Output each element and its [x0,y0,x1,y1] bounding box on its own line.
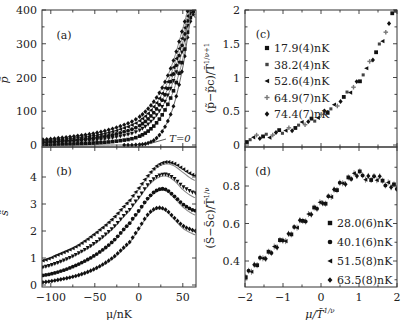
data-point-square [244,275,248,279]
data-point-diamond [191,228,195,233]
data-point-diamond [80,272,84,277]
panel-label: (b) [56,165,72,178]
data-point-diamond [77,273,81,278]
data-point-square [255,263,259,267]
y-tick-label: 100 [16,105,37,118]
legend-label: 28.0(6)nK [337,217,393,230]
data-point-diamond [62,276,66,281]
data-point-circle [126,129,130,133]
data-point-plus [351,85,356,90]
y-axis-label: (p̃−p̃c)/T̃1/ν+1 [203,43,217,113]
data-point-square [342,95,346,99]
data-point-circle [315,207,319,211]
data-point-diamond [328,277,333,283]
data-point-square-small [265,63,268,66]
data-point-square [126,138,130,142]
data-point-square [358,170,362,174]
y-tick-label: 4 [30,171,37,184]
data-point-diamond [56,278,60,283]
data-point-circle [176,197,180,201]
data-point-square-small [249,138,252,141]
y-tick-label: 1 [233,72,240,85]
data-point-square [163,108,167,112]
data-point-circle [122,228,126,232]
data-point-triangle-left [364,66,368,70]
y-tick-label: 1.5 [223,38,241,51]
data-point-circle [269,251,273,255]
data-point-diamond [176,219,180,224]
x-axis-label: μ/nK [106,308,133,321]
data-point-square [390,11,394,15]
data-point-diamond [74,274,78,279]
data-point-diamond [173,216,177,221]
data-point-square [169,96,173,100]
data-point-diamond [170,213,174,218]
data-point-circle [304,219,308,223]
data-point-square [152,124,156,128]
data-point-square-small [265,133,268,136]
data-point-triangle-down [193,191,197,195]
data-point-square [324,202,328,206]
data-point-circle [146,197,150,201]
data-point-circle [134,126,138,130]
y-tick-label: 0.5 [223,105,241,118]
data-point-plus [264,95,269,100]
data-point-circle [113,238,117,242]
data-point-triangle-down [191,191,195,195]
y-tick-label: 0.8 [223,180,241,193]
data-point-diamond [65,276,69,281]
data-point-diamond [59,277,63,282]
x-tick-label: 1 [356,291,363,304]
data-point-square [369,178,373,182]
data-point-square [160,113,164,117]
data-point-square [130,137,134,141]
data-point-diamond [171,104,175,109]
data-point-triangle-left [134,121,138,125]
data-point-circle [115,132,119,136]
legend-label: 52.6(4)nK [274,75,330,88]
data-point-diamond [68,275,72,280]
panel-label: (c) [256,28,271,41]
y-tick-label: 400 [16,4,37,17]
y-axis-label: p̃ [0,76,11,83]
x-tick-label: −1 [275,291,291,304]
data-point-triangle-left [41,259,45,263]
data-point-diamond [146,212,150,217]
data-point-circle [258,256,262,260]
data-point-circle [281,239,285,243]
data-point-diamond [149,209,153,214]
data-point-circle [137,209,141,213]
data-point-square [261,135,265,139]
data-point-circle [107,243,111,247]
data-point-square [155,121,159,125]
data-point-square-small [281,132,284,135]
data-point-diamond [53,278,57,283]
data-point-square [177,71,181,75]
data-point-square [174,81,178,85]
data-point-square [335,188,339,192]
legend-label: 40.1(6)nK [337,236,393,249]
data-point-triangle-left [348,90,352,94]
data-point-square-small [362,73,365,76]
y-axis-label: s̃ [0,210,11,216]
data-point-circle [119,231,123,235]
data-point-square-small [346,91,349,94]
data-point-circle [128,221,132,225]
data-point-square [111,140,115,144]
data-point-square [374,50,378,54]
data-point-diamond [265,111,270,116]
data-point-square-small [297,124,300,127]
data-point-square [158,117,162,121]
data-point-diamond [143,142,147,147]
data-point-diamond [387,21,391,26]
data-point-diamond [71,274,75,279]
legend-label: 51.5(8)nK [337,255,393,268]
data-point-square [119,139,123,143]
data-point-diamond [188,0,192,5]
data-point-plus [384,30,389,35]
data-point-triangle-left [251,135,255,139]
data-point-circle [104,246,108,250]
data-point-square [328,221,332,225]
data-point-circle [372,174,376,178]
panel-label: (a) [56,29,71,42]
